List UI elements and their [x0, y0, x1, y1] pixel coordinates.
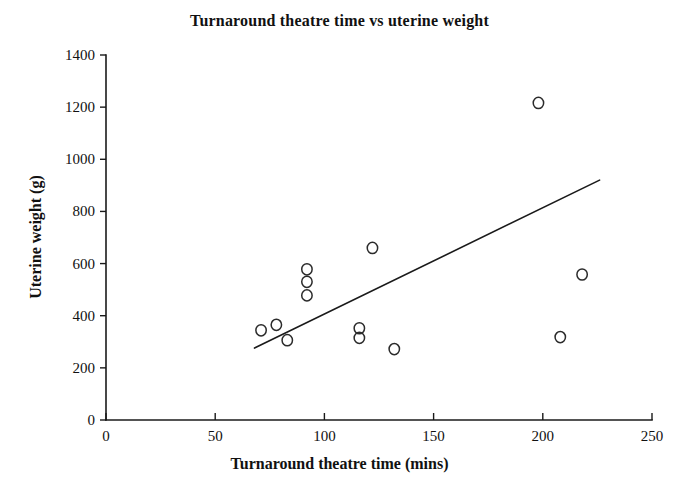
y-tick-label: 400	[73, 308, 96, 324]
data-point	[282, 335, 292, 346]
x-tick-label: 250	[641, 428, 664, 444]
x-tick-label: 100	[313, 428, 336, 444]
x-axis-label: Turnaround theatre time (mins)	[0, 455, 679, 473]
x-axis-ticks: 050100150200250	[102, 413, 663, 444]
x-tick-label: 150	[422, 428, 445, 444]
y-tick-label: 200	[73, 360, 96, 376]
y-tick-label: 1000	[65, 151, 95, 167]
data-point	[302, 264, 312, 275]
scatter-chart-figure: Turnaround theatre time vs uterine weigh…	[0, 0, 679, 489]
y-tick-label: 1200	[65, 99, 95, 115]
x-tick-label: 0	[102, 428, 110, 444]
y-axis-label: Uterine weight (g)	[27, 117, 45, 357]
data-point	[256, 325, 266, 336]
data-point	[367, 242, 377, 253]
y-tick-label: 600	[73, 256, 96, 272]
x-tick-label: 50	[208, 428, 223, 444]
data-point	[555, 331, 565, 342]
plot-area: 0200400600800100012001400 05010015020025…	[0, 0, 679, 489]
y-tick-label: 0	[88, 412, 96, 428]
y-tick-label: 1400	[65, 47, 95, 63]
data-point	[577, 269, 587, 280]
data-point	[389, 343, 399, 354]
data-point	[271, 319, 281, 330]
data-point	[533, 97, 543, 108]
x-tick-label: 200	[532, 428, 555, 444]
data-point	[302, 290, 312, 301]
y-axis-ticks: 0200400600800100012001400	[65, 47, 106, 428]
data-points-group	[256, 97, 587, 354]
y-tick-label: 800	[73, 203, 96, 219]
data-point	[302, 276, 312, 287]
